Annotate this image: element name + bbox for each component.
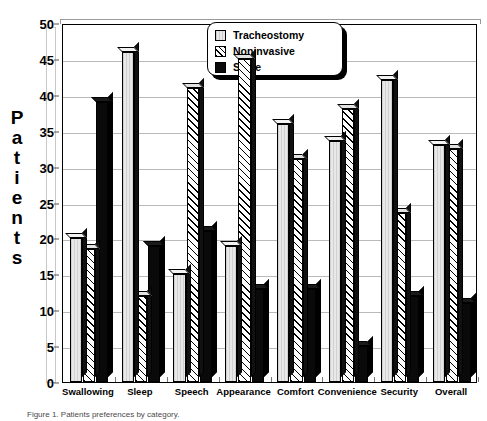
bar-convenience-tracheostomy bbox=[329, 141, 341, 382]
x-tick-mark bbox=[322, 377, 323, 382]
bar-front-face bbox=[433, 145, 445, 382]
x-axis-label-sleep: Sleep bbox=[127, 386, 152, 397]
bar-appearance-tracheostomy bbox=[225, 246, 237, 382]
y-tick-label: 50 bbox=[40, 17, 54, 32]
y-axis-ticks: 05101520253035404550 bbox=[28, 20, 56, 390]
legend-label-tracheostomy: Tracheostomy bbox=[233, 30, 304, 41]
y-tick-label: 40 bbox=[40, 88, 54, 103]
y-tick-label: 25 bbox=[40, 196, 54, 211]
bar-side-face bbox=[419, 286, 424, 377]
y-tick-mark bbox=[54, 275, 59, 276]
y-tick-label: 5 bbox=[47, 340, 54, 355]
x-axis-label-convenience: Convenience bbox=[318, 386, 377, 397]
y-tick-mark bbox=[54, 203, 59, 204]
x-tick-mark bbox=[271, 377, 272, 382]
figure-caption: Figure 1. Patients preferences by catego… bbox=[27, 410, 477, 421]
bar-front-face bbox=[225, 246, 237, 382]
bar-side-face bbox=[147, 286, 152, 377]
bar-side-face bbox=[393, 70, 398, 377]
bar-side-face bbox=[186, 264, 191, 377]
bar-side-face bbox=[108, 92, 113, 377]
y-tick-mark bbox=[54, 24, 59, 25]
x-tick-mark bbox=[167, 377, 168, 382]
y-axis-title-letter: a bbox=[4, 128, 30, 148]
bar-side-face bbox=[82, 228, 87, 377]
y-tick-label: 20 bbox=[40, 232, 54, 247]
x-axis-label-comfort: Comfort bbox=[277, 386, 314, 397]
bar-side-face bbox=[471, 293, 476, 377]
bar-side-face bbox=[289, 114, 294, 377]
bar-side-face bbox=[458, 139, 463, 377]
y-tick-label: 0 bbox=[47, 376, 54, 391]
y-axis-title: Patients bbox=[4, 108, 30, 268]
bar-front-face bbox=[122, 52, 134, 382]
y-tick-mark bbox=[54, 95, 59, 96]
legend-box: Tracheostomy Noninvasive Same bbox=[207, 22, 343, 76]
y-tick-label: 35 bbox=[40, 124, 54, 139]
y-axis-title-letter: t bbox=[4, 148, 30, 168]
y-tick-mark bbox=[54, 239, 59, 240]
bar-side-face bbox=[341, 131, 346, 377]
y-axis-title-letter: n bbox=[4, 208, 30, 228]
bar-side-face bbox=[316, 279, 321, 377]
bar-side-face bbox=[134, 42, 139, 377]
y-axis-title-letter: e bbox=[4, 188, 30, 208]
chart-figure: Patients 05101520253035404550 Swallowing… bbox=[0, 0, 487, 421]
x-tick-mark bbox=[115, 377, 116, 382]
legend-swatch-same-icon bbox=[215, 62, 226, 73]
chart-legend: Tracheostomy Noninvasive Same bbox=[207, 22, 347, 80]
y-tick-mark bbox=[54, 311, 59, 312]
y-tick-label: 45 bbox=[40, 52, 54, 67]
bar-front-face bbox=[70, 238, 82, 382]
legend-item-same: Same bbox=[215, 59, 342, 75]
x-tick-mark bbox=[478, 377, 479, 382]
bar-security-tracheostomy bbox=[381, 80, 393, 382]
bar-front-face bbox=[277, 124, 289, 382]
x-axis-label-security: Security bbox=[380, 386, 418, 397]
y-tick-label: 30 bbox=[40, 160, 54, 175]
bar-front-face bbox=[381, 80, 393, 382]
bar-side-face bbox=[264, 279, 269, 377]
y-tick-mark bbox=[54, 59, 59, 60]
x-axis-label-appearance: Appearance bbox=[216, 386, 270, 397]
bar-front-face bbox=[173, 274, 185, 382]
x-tick-mark bbox=[374, 377, 375, 382]
bar-speech-tracheostomy bbox=[173, 274, 185, 382]
y-tick-label: 10 bbox=[40, 304, 54, 319]
y-tick-mark bbox=[54, 347, 59, 348]
bar-side-face bbox=[303, 149, 308, 377]
bar-comfort-tracheostomy bbox=[277, 124, 289, 382]
y-tick-mark bbox=[54, 383, 59, 384]
legend-swatch-tracheostomy-icon bbox=[215, 30, 226, 41]
bar-front-face bbox=[329, 141, 341, 382]
x-axis-label-speech: Speech bbox=[175, 386, 209, 397]
bar-side-face bbox=[160, 236, 165, 377]
bar-side-face bbox=[354, 99, 359, 377]
bar-side-face bbox=[212, 221, 217, 377]
y-tick-mark bbox=[54, 131, 59, 132]
bar-side-face bbox=[95, 239, 100, 377]
legend-item-tracheostomy: Tracheostomy bbox=[215, 27, 342, 43]
legend-swatch-noninvasive-icon bbox=[215, 46, 226, 57]
x-axis-labels: SwallowingSleepSpeechAppearanceComfortCo… bbox=[62, 386, 477, 404]
bar-side-face bbox=[251, 49, 256, 377]
y-tick-mark bbox=[54, 167, 59, 168]
bar-side-face bbox=[199, 78, 204, 377]
x-tick-mark bbox=[219, 377, 220, 382]
y-axis-title-letter: t bbox=[4, 228, 30, 248]
x-axis-label-swallowing: Swallowing bbox=[62, 386, 114, 397]
bar-side-face bbox=[445, 135, 450, 377]
bar-side-face bbox=[406, 203, 411, 377]
bar-swallowing-tracheostomy bbox=[70, 238, 82, 382]
y-axis-title-letter: s bbox=[4, 248, 30, 268]
y-tick-label: 15 bbox=[40, 268, 54, 283]
x-tick-mark bbox=[426, 377, 427, 382]
y-axis-title-letter: i bbox=[4, 168, 30, 188]
bar-side-face bbox=[237, 236, 242, 377]
x-axis-label-overall: Overall bbox=[435, 386, 467, 397]
y-axis-title-letter: P bbox=[4, 108, 30, 128]
legend-item-noninvasive: Noninvasive bbox=[215, 43, 342, 59]
bar-overall-tracheostomy bbox=[433, 145, 445, 382]
bar-sleep-tracheostomy bbox=[122, 52, 134, 382]
